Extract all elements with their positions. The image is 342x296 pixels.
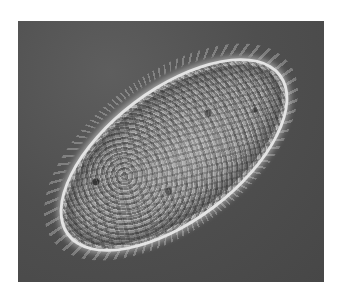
micrograph-frame bbox=[18, 21, 324, 282]
